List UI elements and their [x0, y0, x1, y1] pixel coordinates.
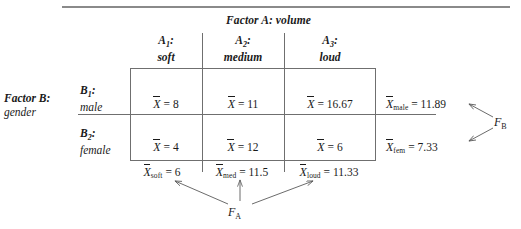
factor-b-title: Factor B: gender [4, 91, 80, 119]
row-marginal-subscript: fem [393, 146, 405, 155]
cell-mean-value: 6 [337, 141, 343, 153]
top-horizontal-rule [62, 6, 510, 8]
column-marginal-subscript: loud [307, 171, 321, 180]
f-b-arrow-to-male [469, 104, 493, 117]
column-marginal-value: 11.5 [249, 166, 269, 178]
cell-mean-female-soft: X = 4 [130, 140, 202, 155]
row-header-b2-desc: female [80, 144, 128, 157]
column-marginal-mean-medium: Xmed = 11.5 [200, 165, 284, 180]
cell-mean-value: 8 [173, 98, 179, 110]
table-border-top [130, 68, 376, 69]
factor-a-title: Factor A: volume [0, 14, 521, 26]
equals-symbol: = [165, 166, 172, 178]
cell-mean-male-medium: X = 11 [202, 97, 284, 112]
column-header-a3-desc: loud [284, 51, 376, 64]
equals-symbol: = [408, 141, 415, 153]
cell-mean-value: 16.67 [327, 98, 353, 110]
f-a-subscript: A [235, 212, 241, 221]
row-header-b2: B2: female [80, 127, 128, 157]
row-marginal-mean-female: Xfem = 7.33 [386, 140, 438, 155]
equals-symbol: = [238, 98, 245, 110]
row-marginal-value: 11.89 [421, 98, 446, 110]
xbar-symbol: X [317, 140, 324, 155]
column-marginal-mean-soft: Xsoft = 6 [122, 165, 202, 180]
equals-symbol: = [411, 98, 418, 110]
row-marginal-mean-male: Xmale = 11.89 [386, 97, 446, 112]
column-header-a1-level: A1: [130, 34, 202, 51]
row-marginal-subscript: male [393, 103, 408, 112]
xbar-symbol: X [300, 165, 307, 180]
xbar-symbol: X [307, 97, 314, 112]
f-b-label: FB [494, 115, 507, 131]
cell-mean-male-soft: X = 8 [130, 97, 202, 112]
xbar-symbol: X [386, 140, 393, 155]
factor-b-title-line1: Factor B: [4, 91, 80, 105]
column-marginal-subscript: soft [151, 171, 163, 180]
row-divider-line [78, 114, 436, 115]
f-a-arrow-to-soft [175, 181, 228, 204]
column-header-a3-level: A3: [284, 34, 376, 51]
row-header-b1-desc: male [80, 101, 128, 114]
cell-mean-female-medium: X = 12 [202, 140, 284, 155]
f-b-subscript: B [501, 122, 506, 131]
column-marginal-mean-loud: Xloud = 11.33 [282, 165, 376, 180]
cell-mean-value: 12 [247, 141, 259, 153]
f-a-label: FA [228, 205, 241, 221]
anova-cell-means-figure: Factor A: volume A1: soft A2: medium A3:… [0, 0, 521, 229]
xbar-symbol: X [144, 165, 151, 180]
row-marginal-value: 7.33 [418, 141, 438, 153]
row-header-b1-level: B1: [80, 84, 128, 101]
equals-symbol: = [164, 141, 171, 153]
column-marginal-value: 6 [175, 166, 181, 178]
equals-symbol: = [328, 141, 335, 153]
factor-a-title-text: Factor A: volume [226, 14, 311, 26]
column-header-a2-level: A2: [202, 34, 284, 51]
column-header-a2-desc: medium [202, 51, 284, 64]
xbar-symbol: X [228, 97, 235, 112]
xbar-symbol: X [216, 165, 223, 180]
xbar-symbol: X [386, 97, 393, 112]
row-header-b1: B1: male [80, 84, 128, 114]
column-marginal-value: 11.33 [333, 166, 358, 178]
f-a-arrow-to-loud [252, 181, 313, 204]
cell-mean-value: 4 [173, 141, 179, 153]
equals-symbol: = [164, 98, 171, 110]
xbar-symbol: X [153, 97, 160, 112]
cell-mean-male-loud: X = 16.67 [284, 97, 376, 112]
table-border-bottom [130, 160, 376, 161]
column-header-a2: A2: medium [202, 34, 284, 64]
column-marginal-subscript: med [223, 171, 236, 180]
column-header-a3: A3: loud [284, 34, 376, 64]
equals-symbol: = [239, 166, 246, 178]
xbar-symbol: X [153, 140, 160, 155]
factor-b-title-line2: gender [4, 105, 80, 119]
xbar-symbol: X [227, 140, 234, 155]
equals-symbol: = [324, 166, 331, 178]
column-header-a1: A1: soft [130, 34, 202, 64]
cell-mean-female-loud: X = 6 [284, 140, 376, 155]
cell-mean-value: 11 [247, 98, 258, 110]
f-b-arrow-to-female [469, 128, 493, 141]
equals-symbol: = [317, 98, 324, 110]
equals-symbol: = [238, 141, 245, 153]
row-header-b2-level: B2: [80, 127, 128, 144]
column-header-a1-desc: soft [130, 51, 202, 64]
